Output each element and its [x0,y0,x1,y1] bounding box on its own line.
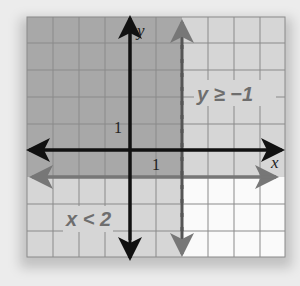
y-tick-label: 1 [114,119,122,136]
y-axis-label: y [135,21,145,40]
inequality-label-y: y ≥ −1 [196,83,253,105]
x-axis-label: x [270,153,279,172]
coordinate-graph: y x 1 1 y ≥ −1 x < 2 [0,0,300,286]
inequality-label-x: x < 2 [65,208,111,230]
x-tick-label: 1 [152,156,160,173]
